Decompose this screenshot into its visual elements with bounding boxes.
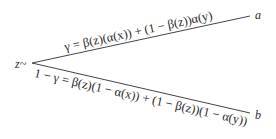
- root-node-label: z~: [15, 58, 26, 70]
- edge-to-b: [32, 63, 250, 113]
- probability-tree-diagram: z~ a b γ = β(z)(α(x)) + (1 − β(z))α(y) 1…: [0, 0, 276, 139]
- node-b-label: b: [255, 109, 261, 121]
- node-a-label: a: [255, 9, 261, 21]
